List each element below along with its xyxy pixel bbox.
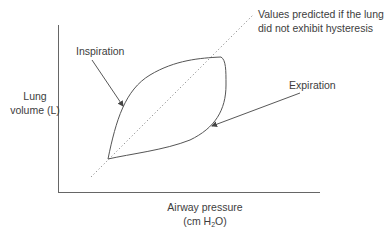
x-axis-label-line2: (cm H2O) bbox=[150, 214, 260, 228]
y-axis-label-line1: Lung bbox=[10, 89, 60, 103]
expiration-label: Expiration bbox=[289, 78, 336, 92]
y-axis-label: Lung volume (L) bbox=[10, 89, 60, 117]
inspiration-arrow bbox=[92, 60, 123, 106]
x-axis-label-line1: Airway pressure bbox=[150, 200, 260, 214]
no-hysteresis-line bbox=[91, 15, 253, 177]
no-hysteresis-label-line2: did not exhibit hysteresis bbox=[258, 21, 373, 35]
expiration-curve bbox=[108, 57, 226, 159]
y-axis-label-line2: volume (L) bbox=[10, 103, 60, 117]
x-axis-label: Airway pressure (cm H2O) bbox=[150, 200, 260, 228]
inspiration-label: Inspiration bbox=[76, 44, 124, 58]
no-hysteresis-label-line1: Values predicted if the lung bbox=[258, 7, 384, 21]
